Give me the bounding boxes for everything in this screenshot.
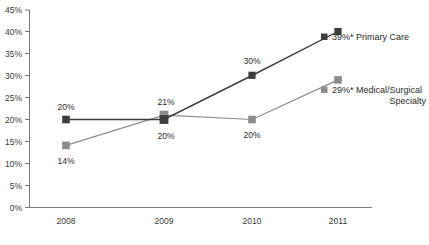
- y-tick-label: 35%: [5, 49, 22, 59]
- data-point-label: 20%: [157, 131, 174, 141]
- y-axis-ticks: 0% 5% 10% 15% 20% 25% 30% 35% 40% 45%: [5, 5, 30, 213]
- data-point-marker: [62, 142, 70, 150]
- y-tick-label: 5%: [10, 181, 23, 191]
- data-point-marker: [334, 76, 342, 84]
- x-tick-label-2009: 2009: [155, 216, 174, 226]
- y-tick-label: 30%: [5, 71, 22, 81]
- series-medical-surgical-specialty: 14% 21% 20%: [57, 76, 341, 166]
- x-tick-label-2010: 2010: [243, 216, 262, 226]
- data-point-label: 20%: [57, 102, 74, 112]
- x-tick-label-2008: 2008: [57, 216, 76, 226]
- chart-svg: 0% 5% 10% 15% 20% 25% 30% 35% 40% 45% 20…: [0, 0, 429, 245]
- legend-label-medical-surgical-line2: Specialty: [389, 96, 426, 106]
- y-tick-label: 0%: [10, 203, 23, 213]
- line-chart: 0% 5% 10% 15% 20% 25% 30% 35% 40% 45% 20…: [0, 0, 429, 245]
- y-tick-label: 15%: [5, 137, 22, 147]
- series-line-medical-surgical: [66, 80, 338, 145]
- legend-label-medical-surgical-line1: 29%* Medical/Surgical: [332, 85, 422, 95]
- data-point-marker: [62, 116, 70, 124]
- y-tick-label: 45%: [5, 5, 22, 15]
- y-tick-label: 10%: [5, 159, 22, 169]
- y-tick-label: 25%: [5, 93, 22, 103]
- x-axis-labels: 2008 2009 2010 2011: [57, 216, 348, 226]
- legend-primary-care: 39%* Primary Care: [321, 32, 409, 42]
- y-tick-label: 20%: [5, 115, 22, 125]
- data-point-label: 21%: [157, 97, 174, 107]
- data-point-marker: [248, 72, 255, 79]
- data-point-label: 20%: [243, 130, 260, 140]
- data-point-label: 30%: [243, 56, 260, 66]
- data-point-marker: [160, 115, 169, 124]
- series-line-primary-care: [66, 32, 338, 120]
- data-point-label: 14%: [57, 156, 74, 166]
- x-tick-label-2011: 2011: [329, 216, 348, 226]
- y-tick-label: 40%: [5, 27, 22, 37]
- legend-label-primary-care: 39%* Primary Care: [332, 32, 409, 42]
- series-primary-care: 20% 20% 30%: [57, 28, 341, 141]
- legend-swatch-primary-care: [321, 34, 328, 41]
- legend-swatch-medical-surgical: [321, 87, 328, 94]
- legend-medical-surgical-specialty: 29%* Medical/Surgical Specialty: [321, 85, 426, 106]
- data-point-marker: [248, 116, 256, 124]
